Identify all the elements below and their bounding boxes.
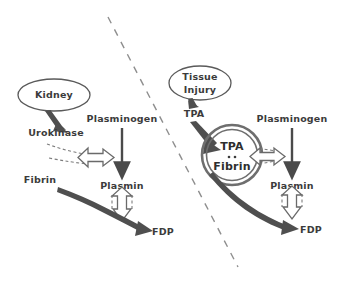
plasmin-cleavage-arrow-right — [282, 186, 302, 219]
fdp-label-left: FDP — [152, 226, 174, 237]
tissue-injury-label-line2: Injury — [184, 84, 217, 95]
fdp-label-right: FDP — [300, 224, 322, 235]
tpa-label: TPA — [184, 108, 205, 119]
urokinase-activation-arrow — [47, 144, 114, 167]
tpa-fibrin-bond-dots — [228, 156, 237, 159]
tpa-fibrin-label-line2: Fibrin — [213, 160, 250, 173]
diagram-canvas: Kidney Urokinase Plasminogen Plasmin — [0, 0, 343, 284]
tpa-to-complex-arrow — [190, 121, 221, 154]
plasminogen-label-left: Plasminogen — [87, 113, 158, 124]
tpa-pathway-panel: Tissue Injury TPA TPA — [169, 66, 328, 235]
plasminogen-label-right: Plasminogen — [257, 113, 328, 124]
tissue-injury-label-line1: Tissue — [182, 71, 217, 82]
complex-activation-arrow — [250, 148, 285, 165]
fibrin-label-left: Fibrin — [24, 174, 56, 185]
urokinase-pathway-panel: Kidney Urokinase Plasminogen Plasmin — [18, 79, 174, 237]
urokinase-label: Urokinase — [28, 127, 84, 138]
tpa-fibrin-label-line1: TPA — [220, 140, 244, 153]
fibrinolysis-diagram: Kidney Urokinase Plasminogen Plasmin — [0, 0, 343, 284]
fibrin-to-fdp-arrow-left — [57, 187, 153, 236]
kidney-label: Kidney — [35, 89, 74, 100]
